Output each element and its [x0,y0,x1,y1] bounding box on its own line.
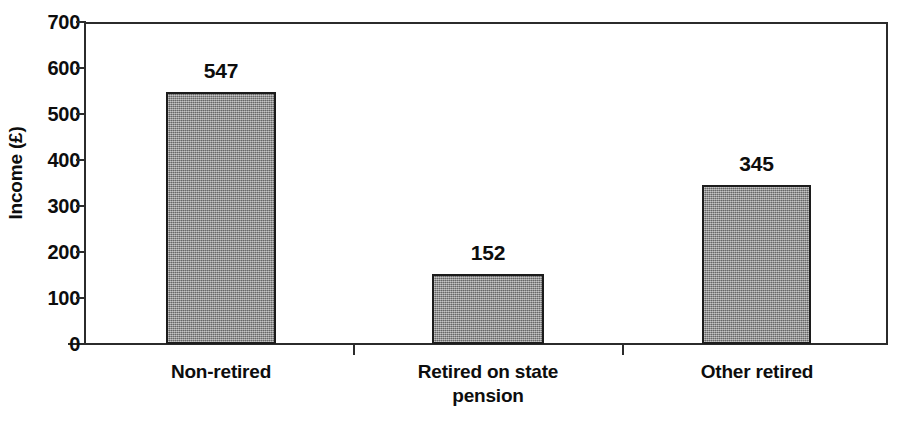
x-tick-mark-2 [622,344,624,355]
y-tick-label-600: 600 [30,58,80,78]
y-tick-label-400: 400 [30,150,80,170]
y-axis-title-text: Income (£) [5,126,27,219]
bar-other-retired[interactable] [702,185,811,344]
y-tick-mark-500 [76,113,85,115]
y-tick-label-100: 100 [30,288,80,308]
bar-value-other-retired: 345 [702,153,811,174]
x-category-label-retired-on-state-pension: Retired on state pension [398,360,578,408]
y-tick-mark-600 [76,67,85,69]
x-category-label-line: Retired on state [398,360,578,384]
y-tick-label-700: 700 [30,12,80,32]
y-tick-mark-400 [76,159,85,161]
x-tick-mark-1 [353,344,355,355]
x-category-label-line: Non-retired [131,360,311,384]
bar-non-retired[interactable] [166,92,276,344]
bar-retired-on-state-pension[interactable] [432,274,544,344]
y-tick-label-200: 200 [30,242,80,262]
y-tick-mark-300 [76,205,85,207]
bar-value-non-retired: 547 [166,60,276,81]
x-category-label-other-retired: Other retired [667,360,847,384]
x-category-label-line: Other retired [667,360,847,384]
bar-value-retired-on-state-pension: 152 [432,242,544,263]
x-category-label-line: pension [398,384,578,408]
y-tick-mark-200 [76,251,85,253]
y-tick-label-0: 0 [30,334,80,354]
y-tick-mark-100 [76,297,85,299]
y-tick-label-500: 500 [30,104,80,124]
bar-chart: Income (£) 700 600 500 400 300 200 100 0… [0,0,899,427]
y-axis-title: Income (£) [2,0,30,345]
x-category-label-non-retired: Non-retired [131,360,311,384]
y-tick-label-300: 300 [30,196,80,216]
y-tick-mark-700 [76,21,85,23]
